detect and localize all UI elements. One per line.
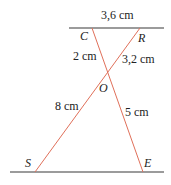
- point-R-label: R: [138, 32, 145, 44]
- label-RO-length: 3,2 cm: [122, 53, 155, 65]
- label-CO-length: 2 cm: [73, 50, 97, 62]
- point-E-label: E: [144, 157, 151, 169]
- segment-CE: [92, 28, 143, 172]
- label-CR-length: 3,6 cm: [101, 9, 134, 21]
- point-O-label: O: [99, 82, 108, 94]
- label-SO-length: 8 cm: [55, 100, 79, 112]
- point-C-label: C: [80, 30, 88, 42]
- point-S-label: S: [25, 157, 31, 169]
- label-EO-length: 5 cm: [125, 106, 149, 118]
